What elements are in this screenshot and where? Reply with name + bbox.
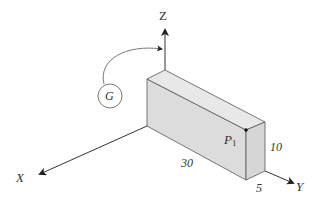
x-axis-label: X <box>16 171 24 184</box>
length-dimension-label: 30 <box>181 157 193 169</box>
y-axis <box>265 171 293 183</box>
diagram-svg <box>0 0 322 202</box>
z-axis-label: Z <box>159 9 167 22</box>
box-side-face <box>246 122 265 180</box>
point-p1-label: P1 <box>224 133 236 148</box>
point-p1-letter: P <box>224 132 232 147</box>
point-p1-subscript: 1 <box>232 138 237 148</box>
height-dimension-label: 10 <box>270 141 282 153</box>
point-p1-marker <box>244 128 248 132</box>
g-label: G <box>105 90 114 102</box>
y-axis-label: Y <box>296 180 303 193</box>
x-axis <box>40 126 147 174</box>
depth-dimension-label: 5 <box>256 182 262 194</box>
diagram-canvas: Z X Y G P1 30 10 5 <box>0 0 322 202</box>
